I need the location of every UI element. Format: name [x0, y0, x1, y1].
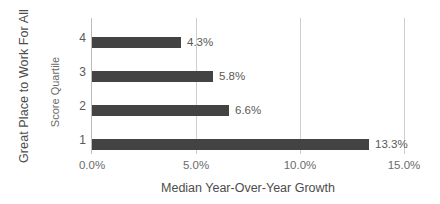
x-tick-label-0: 0.0%: [62, 158, 122, 172]
bar-chart: Great Place to Work For All Score Quarti…: [0, 0, 440, 204]
y-axis-title: Score Quartile: [48, 42, 62, 142]
bar-quartile-2[interactable]: [92, 105, 229, 116]
plot-area: 4.3% 5.8% 6.6% 13.3%: [92, 18, 404, 154]
outer-y-axis-title: Great Place to Work For All: [16, 1, 32, 171]
y-tick-label-1: 1: [62, 133, 86, 147]
bar-row: 5.8%: [92, 60, 404, 94]
x-tick-label-15: 15.0%: [374, 158, 434, 172]
bar-row: 6.6%: [92, 94, 404, 128]
x-tick-label-5: 5.0%: [166, 158, 226, 172]
bar-value-quartile-3: 5.8%: [219, 69, 245, 84]
y-tick-label-4: 4: [62, 31, 86, 45]
bar-value-quartile-2: 6.6%: [235, 103, 261, 118]
x-tick-label-10: 10.0%: [270, 158, 330, 172]
bar-quartile-3[interactable]: [92, 71, 213, 82]
bar-value-quartile-4: 4.3%: [187, 35, 213, 50]
y-tick-label-3: 3: [62, 65, 86, 79]
bar-value-quartile-1: 13.3%: [375, 137, 408, 152]
bar-quartile-1[interactable]: [92, 139, 369, 150]
bar-row: 13.3%: [92, 128, 404, 162]
x-axis-title: Median Year-Over-Year Growth: [92, 180, 404, 196]
gridline-15pct: [404, 18, 405, 154]
y-tick-label-2: 2: [62, 99, 86, 113]
bar-row: 4.3%: [92, 26, 404, 60]
bar-quartile-4[interactable]: [92, 37, 181, 48]
